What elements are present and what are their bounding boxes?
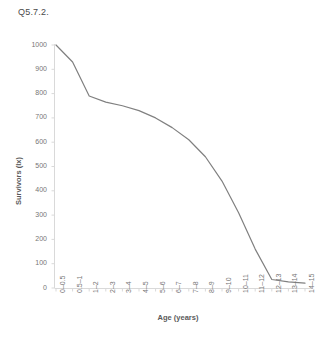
y-axis-tick-label: 700 xyxy=(17,113,47,120)
x-axis-tick-label: 8–9 xyxy=(208,281,215,293)
x-axis-title: Age (years) xyxy=(0,313,330,322)
y-axis-tick-label: 1000 xyxy=(17,41,47,48)
y-axis-tick-label: 200 xyxy=(17,235,47,242)
x-axis-tick-label: 1–2 xyxy=(92,281,99,293)
x-axis-tick-label: 13–14 xyxy=(291,274,298,293)
x-axis-tick-label: 12–13 xyxy=(275,274,282,293)
x-axis-tick-label: 9–10 xyxy=(225,277,232,293)
survivorship-chart-figure: Q5.7.2. 01002003004005006007008009001000… xyxy=(0,0,330,343)
x-axis-tick-label: 6–7 xyxy=(175,281,182,293)
x-axis-tick-label: 5–6 xyxy=(159,281,166,293)
y-axis-tick-label: 300 xyxy=(17,211,47,218)
y-axis-tick-label: 800 xyxy=(17,89,47,96)
x-axis-tick-label: 0–0.5 xyxy=(59,275,66,293)
y-axis-tick-label: 100 xyxy=(17,259,47,266)
x-axis-tick-label: 4–5 xyxy=(142,281,149,293)
axis-lines xyxy=(55,44,313,289)
y-axis-tick-label: 600 xyxy=(17,138,47,145)
x-axis-tick-label: 3–4 xyxy=(125,281,132,293)
x-axis-tick-label: 2–3 xyxy=(109,281,116,293)
x-axis-tick-label: 7–8 xyxy=(192,281,199,293)
x-axis-tick-label: 11–12 xyxy=(258,274,265,293)
x-axis-tick-label: 0.5–1 xyxy=(76,275,83,293)
y-axis-title: Survivors (lx) xyxy=(14,157,23,205)
survivorship-line-series xyxy=(56,45,305,283)
y-axis-tick-label: 0 xyxy=(17,284,47,291)
x-axis-tick-label: 14–15 xyxy=(308,274,315,293)
x-axis-tick-label: 10–11 xyxy=(242,274,249,293)
y-axis-tick-label: 900 xyxy=(17,65,47,72)
